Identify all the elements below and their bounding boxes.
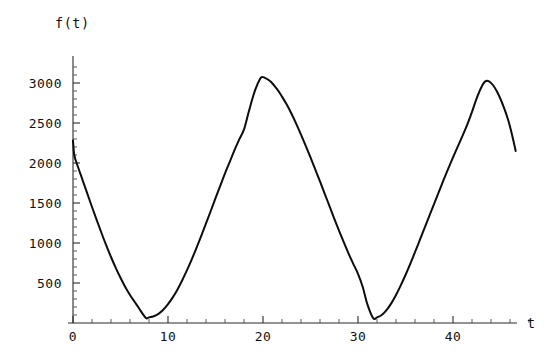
x-tick-label: 0 (69, 329, 77, 344)
y-axis-minor-ticks (73, 67, 77, 315)
y-tick-label: 2500 (29, 116, 62, 131)
y-tick-label: 3000 (29, 76, 62, 91)
x-axis-tick-labels: 010203040 (69, 329, 461, 344)
plot-figure: 010203040 50010001500200025003000 f(t) t (0, 0, 557, 364)
x-tick-label: 30 (350, 329, 367, 344)
y-tick-label: 1500 (29, 196, 62, 211)
y-axis-major-ticks (73, 83, 80, 283)
x-tick-label: 20 (255, 329, 272, 344)
y-tick-label: 2000 (29, 156, 62, 171)
x-axis-title: t (527, 315, 536, 331)
x-axis-minor-ticks (92, 319, 529, 323)
x-tick-label: 40 (445, 329, 462, 344)
y-axis-title: f(t) (55, 15, 90, 31)
y-tick-label: 500 (37, 276, 62, 291)
y-tick-label: 1000 (29, 236, 62, 251)
x-axis-group: 010203040 (68, 316, 529, 344)
y-axis-group: 50010001500200025003000 (29, 56, 80, 323)
y-axis-tick-labels: 50010001500200025003000 (29, 76, 62, 291)
plot-canvas: 010203040 50010001500200025003000 f(t) t (0, 0, 557, 364)
function-curve (73, 77, 516, 319)
x-tick-label: 10 (160, 329, 177, 344)
